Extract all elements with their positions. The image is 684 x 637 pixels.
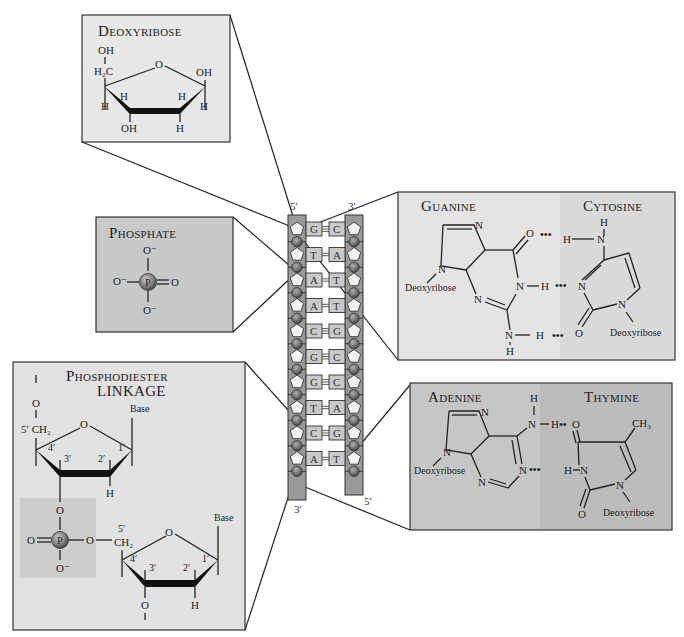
- phosphate-group-icon: [292, 339, 302, 349]
- base-letter-right: C: [333, 223, 340, 235]
- svg-text:O: O: [578, 508, 586, 520]
- thymine-title: THYMINE: [584, 389, 639, 405]
- svg-text:Deoxyribose: Deoxyribose: [603, 507, 655, 518]
- phosphate-group-icon: [349, 415, 359, 425]
- svg-text:4′: 4′: [48, 442, 55, 453]
- svg-text:N: N: [443, 446, 451, 458]
- svg-text:H: H: [600, 216, 608, 228]
- svg-text:LINKAGE: LINKAGE: [97, 383, 166, 399]
- svg-text:O: O: [32, 397, 40, 409]
- svg-text:O⁻: O⁻: [113, 275, 127, 287]
- phosphate-group-icon: [349, 262, 359, 272]
- guanine-cytosine-panel: GUANINE CYTOSINE N N Deoxyribose O N H N…: [398, 192, 675, 360]
- svg-text:H: H: [536, 329, 544, 341]
- svg-text:2′: 2′: [183, 562, 190, 573]
- svg-text:•••: •••: [552, 329, 564, 341]
- svg-text:N: N: [597, 233, 605, 245]
- phosphate-group-icon: [349, 313, 359, 323]
- svg-text:2′: 2′: [98, 453, 105, 464]
- phosphate-group-icon: [292, 390, 302, 400]
- phosphate-group-icon: [349, 364, 359, 374]
- svg-text:N: N: [505, 329, 513, 341]
- svg-text:O: O: [80, 418, 88, 430]
- svg-text:O: O: [27, 534, 35, 546]
- svg-text:H: H: [551, 418, 559, 430]
- phosphate-group-icon: [292, 364, 302, 374]
- svg-text:1′: 1′: [118, 442, 125, 453]
- svg-text:1′: 1′: [202, 553, 209, 564]
- svg-text:•••: •••: [555, 279, 567, 291]
- base-letter-left: G: [310, 223, 318, 235]
- svg-text:O: O: [56, 504, 64, 516]
- phosphate-group-icon: [292, 237, 302, 247]
- base-letter-right: A: [333, 249, 341, 261]
- svg-text:N: N: [478, 476, 486, 488]
- svg-text:P: P: [57, 535, 63, 546]
- base-letter-left: G: [310, 351, 318, 363]
- deoxyribose-title: DEOXYRIBOSE: [98, 23, 182, 39]
- left-strand-3prime-label: 3′: [294, 503, 302, 515]
- base-letter-left: C: [310, 325, 317, 337]
- svg-text:O: O: [141, 599, 149, 611]
- svg-text:H: H: [564, 464, 572, 476]
- svg-text:H: H: [541, 280, 549, 292]
- phosphate-group-icon: [349, 339, 359, 349]
- svg-text:O⁻: O⁻: [56, 562, 70, 574]
- base-letter-left: G: [310, 376, 318, 388]
- svg-text:H₂C: H₂C: [94, 65, 113, 77]
- svg-text:•••: •••: [540, 228, 552, 240]
- phosphate-group-icon: [349, 466, 359, 476]
- base-letter-left: T: [310, 249, 317, 261]
- svg-text:N: N: [616, 479, 624, 491]
- svg-text:•••: •••: [529, 463, 541, 475]
- base-letter-left: A: [310, 300, 318, 312]
- svg-text:O⁻: O⁻: [143, 244, 157, 256]
- base-letter-left: A: [310, 274, 318, 286]
- svg-text:N: N: [519, 464, 527, 476]
- phosphodiester-title: PHOSPHODIESTER: [66, 368, 168, 384]
- svg-text:O: O: [155, 58, 163, 70]
- right-strand-5prime-label: 5′: [364, 495, 372, 507]
- svg-text:N: N: [580, 464, 588, 476]
- svg-text:N: N: [474, 293, 482, 305]
- svg-text:N: N: [578, 280, 586, 292]
- dna-structure-diagram: DEOXYRIBOSE OH H₂C O OH H H OH H H H PHO…: [0, 0, 684, 637]
- svg-text:H: H: [200, 100, 208, 112]
- svg-text:OH: OH: [196, 66, 212, 78]
- svg-text:H: H: [106, 487, 114, 499]
- svg-text:N: N: [481, 406, 489, 418]
- phosphate-group-icon: [349, 390, 359, 400]
- svg-text:Base: Base: [214, 512, 234, 523]
- phosphate-group-icon: [292, 262, 302, 272]
- svg-text:O: O: [171, 276, 179, 288]
- phosphodiester-panel: PHOSPHODIESTER LINKAGE O 5′ CH₂ O Base 4…: [13, 362, 245, 630]
- cytosine-title: CYTOSINE: [583, 198, 642, 214]
- svg-text:O: O: [575, 327, 583, 339]
- svg-text:O: O: [86, 534, 94, 546]
- base-letter-right: T: [333, 274, 340, 286]
- base-letter-right: C: [333, 351, 340, 363]
- deoxyribose-panel: DEOXYRIBOSE OH H₂C O OH H H OH H H H: [82, 15, 230, 142]
- svg-text:OH: OH: [98, 44, 114, 56]
- svg-text:CH₂: CH₂: [114, 536, 133, 548]
- svg-text:Deoxyribose: Deoxyribose: [405, 282, 457, 293]
- phosphate-group-icon: [292, 466, 302, 476]
- phosphate-group-icon: [349, 441, 359, 451]
- base-letter-right: A: [333, 402, 341, 414]
- svg-text:3′: 3′: [149, 562, 156, 573]
- phosphate-group-icon: [292, 288, 302, 298]
- svg-text:Deoxyribose: Deoxyribose: [414, 465, 466, 476]
- svg-text:4′: 4′: [130, 553, 137, 564]
- svg-text:H: H: [191, 599, 199, 611]
- phosphate-group-icon: [292, 415, 302, 425]
- adenine-thymine-panel: ADENINE THYMINE N N Deoxyribose H N H ••…: [410, 383, 672, 530]
- phosphate-title: PHOSPHATE: [109, 225, 176, 241]
- svg-text:N: N: [438, 263, 446, 275]
- phosphate-panel: PHOSPHATE O⁻ O⁻ P O O⁻: [96, 217, 233, 332]
- svg-text:O⁻: O⁻: [143, 304, 157, 316]
- left-strand-5prime-label: 5′: [290, 200, 298, 212]
- phosphate-group-icon: [349, 237, 359, 247]
- base-letter-right: G: [333, 427, 341, 439]
- svg-text:O: O: [572, 418, 580, 430]
- svg-text:5′: 5′: [118, 523, 125, 534]
